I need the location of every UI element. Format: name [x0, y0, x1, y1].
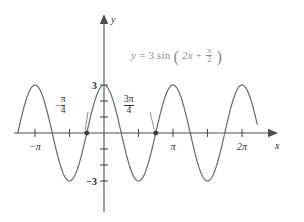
- callout-3pi-over-4-denominator: 4: [124, 105, 134, 116]
- equation-phase-fraction: π 2: [206, 47, 212, 64]
- equation-function: sin: [157, 49, 170, 61]
- equation-close-paren: ): [216, 47, 222, 66]
- equation-phase-denominator: 2: [206, 55, 212, 64]
- equation-lhs: y: [131, 49, 136, 61]
- marked-point: [153, 131, 158, 136]
- axes-group: [14, 14, 278, 212]
- x-axis-tick-label: π: [170, 141, 176, 152]
- equation-amplitude: 3: [148, 49, 154, 61]
- callout-3pi-over-4-numerator: 3π: [124, 95, 134, 105]
- x-axis-tick-label: −π: [29, 141, 42, 152]
- x-axis-arrow: [268, 129, 278, 137]
- y-axis-tick-label: −3: [86, 176, 97, 187]
- equation-equals: =: [139, 49, 145, 61]
- tick-labels-group: yx−ππ2π3−3: [29, 14, 280, 187]
- leader-line-3pi-over-4: [150, 112, 154, 130]
- x-axis-label: x: [274, 140, 280, 151]
- y-axis-label: y: [110, 14, 116, 25]
- equation-plus: +: [196, 49, 202, 61]
- callout-neg-pi-over-4-numerator: π: [61, 95, 66, 105]
- x-axis-tick-label: 2π: [237, 141, 248, 152]
- callout-neg-pi-over-4: −π4: [55, 95, 65, 116]
- callout-neg-pi-over-4-fraction: π4: [61, 95, 66, 116]
- callout-3pi-over-4-fraction: 3π4: [124, 95, 134, 116]
- equation-open-paren: (: [173, 47, 179, 66]
- y-axis-arrow: [100, 14, 108, 24]
- graph-figure: yx−ππ2π3−3 y = 3 sin ( 2x + π 2 ) −π4 3π…: [0, 0, 304, 222]
- callout-3pi-over-4: 3π4: [124, 95, 134, 116]
- marked-point: [84, 131, 89, 136]
- equation-inner-linear: 2x: [182, 49, 193, 61]
- plot-canvas: yx−ππ2π3−3: [0, 0, 304, 222]
- equation-phase-numerator: π: [206, 47, 212, 55]
- callout-neg-pi-over-4-denominator: 4: [61, 105, 66, 116]
- y-axis-tick-label: 3: [92, 80, 97, 91]
- equation-label: y = 3 sin ( 2x + π 2 ): [131, 47, 222, 67]
